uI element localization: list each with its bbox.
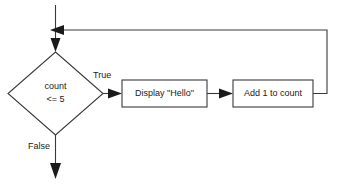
false-branch-arrowhead-icon <box>50 163 61 179</box>
process-display-label: Display "Hello" <box>135 88 194 98</box>
true-branch-label: True <box>93 70 111 80</box>
flowchart-canvas: count <= 5 True Display "Hello" Add 1 to… <box>0 0 344 185</box>
true-branch-arrowhead-icon <box>108 89 122 99</box>
process-increment-label: Add 1 to count <box>244 88 303 98</box>
entry-arrowhead-icon <box>51 38 61 52</box>
display-to-increment-arrowhead-icon <box>219 89 233 99</box>
loopback-arrowhead-icon <box>50 25 64 35</box>
false-branch-label: False <box>28 141 50 151</box>
decision-label-line2: <= 5 <box>46 94 64 104</box>
decision-label-line1: count <box>44 81 67 91</box>
